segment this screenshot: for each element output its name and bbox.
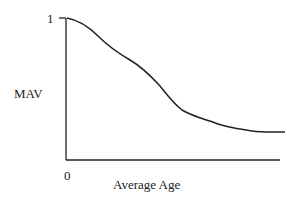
origin-label: 0 (64, 168, 71, 183)
mav-curve (67, 18, 285, 132)
y-tick-label-1: 1 (47, 11, 54, 26)
y-axis-label: MAV (14, 86, 43, 101)
mav-vs-average-age-chart: 1 MAV 0 Average Age (0, 0, 299, 203)
x-axis-label: Average Age (113, 177, 180, 192)
